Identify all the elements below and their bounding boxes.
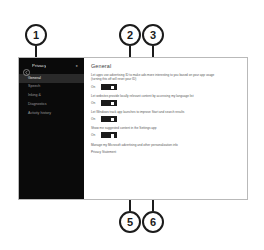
toggle-row: On xyxy=(91,84,240,90)
callout-2-number: 2 xyxy=(127,30,133,41)
callout-1: 1 xyxy=(25,24,47,46)
toggle-state-label: On xyxy=(91,85,98,89)
toggle-row: On xyxy=(91,116,240,122)
callout-5: 5 xyxy=(119,211,141,233)
toggle-knob xyxy=(111,102,114,105)
setting-description: Let websites provide locally relevant co… xyxy=(91,94,223,98)
page-title: General xyxy=(91,63,240,69)
website-language-list-toggle[interactable] xyxy=(101,100,117,106)
callout-5-number: 5 xyxy=(127,217,133,228)
advertising-id-toggle[interactable] xyxy=(101,84,117,90)
toggle-state-label: On xyxy=(91,117,98,121)
callout-2: 2 xyxy=(119,24,141,46)
setting-website-language-list: Let websites provide locally relevant co… xyxy=(91,94,240,106)
sidebar-item-label: Activity history xyxy=(28,111,51,115)
sidebar-title: Privacy xyxy=(32,63,46,68)
sidebar-item-speech[interactable]: Speech xyxy=(19,83,84,92)
settings-main-panel: General Let apps use advertising ID to m… xyxy=(84,58,247,199)
toggle-knob xyxy=(111,118,114,121)
sidebar-item-label: Inking & xyxy=(28,93,41,97)
toggle-state-label: On xyxy=(91,133,98,137)
annotated-figure: 1 2 3 5 6 Privacy ● xyxy=(0,0,264,250)
inking-typing-personalization-toggle[interactable] xyxy=(101,132,117,138)
toggle-row: On xyxy=(91,100,240,106)
toggle-knob xyxy=(111,86,114,89)
setting-description: Let apps use advertising ID to make ads … xyxy=(91,73,223,82)
setting-track-app-launches: Let Windows track app launches to improv… xyxy=(91,110,240,122)
toggle-state-label: On xyxy=(91,101,98,105)
sidebar-item-diagnostics[interactable]: Diagnostics xyxy=(19,100,84,109)
callout-6: 6 xyxy=(142,211,164,233)
sidebar-item-list: General Speech Inking & Diagnostics Acti… xyxy=(19,74,84,118)
privacy-sidebar-navigation[interactable]: Privacy ● General Speech Inking & Diagno… xyxy=(19,58,84,199)
sidebar-item-label: Diagnostics xyxy=(28,102,47,106)
setting-advertising-id: Let apps use advertising ID to make ads … xyxy=(91,73,240,90)
back-arrow-icon[interactable] xyxy=(23,62,30,69)
setting-suggested-content: Show me suggested content in the Setting… xyxy=(91,126,240,138)
sidebar-item-label: General xyxy=(28,76,41,80)
settings-window: Privacy ● General Speech Inking & Diagno… xyxy=(18,57,248,200)
sidebar-item-activity-history[interactable]: Activity history xyxy=(19,109,84,118)
setting-description: Let Windows track app launches to improv… xyxy=(91,110,223,114)
sidebar-header: Privacy ● xyxy=(19,58,84,72)
callout-1-number: 1 xyxy=(33,30,39,41)
toggle-row: On xyxy=(91,132,240,138)
track-app-launches-toggle[interactable] xyxy=(101,116,117,122)
toggle-knob xyxy=(111,134,114,137)
sidebar-item-label: Speech xyxy=(28,84,40,88)
callout-3-number: 3 xyxy=(150,30,156,41)
sidebar-item-inking[interactable]: Inking & xyxy=(19,92,84,101)
callout-3: 3 xyxy=(142,24,164,46)
callout-6-number: 6 xyxy=(150,217,156,228)
sidebar-item-general[interactable]: General xyxy=(19,74,84,83)
link-privacy-statement[interactable]: Privacy Statement xyxy=(91,150,221,155)
pin-icon[interactable]: ● xyxy=(76,63,80,68)
link-manage-advertising-info[interactable]: Manage my Microsoft advertising and othe… xyxy=(91,143,221,148)
setting-description: Show me suggested content in the Setting… xyxy=(91,126,223,130)
